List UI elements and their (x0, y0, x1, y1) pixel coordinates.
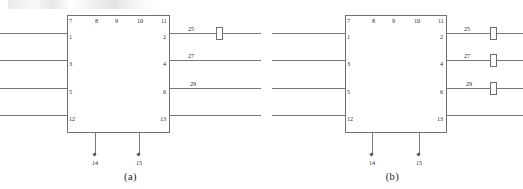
circuit-diagram-a: 7 8 9 10 11 1 3 5 12 2 4 6 13 25 27 29 (0, 0, 261, 189)
input-wire-b-12 (272, 115, 345, 116)
terminal-b-14 (369, 152, 373, 156)
ic-box-a (67, 15, 170, 133)
pin-label-a-left-1: 1 (69, 34, 72, 40)
input-wire-b-1 (272, 33, 345, 34)
output-wire-b-2 (447, 33, 523, 34)
pin-label-a-top-9: 9 (115, 18, 118, 24)
pin-label-a-left-5: 5 (69, 89, 72, 95)
wire-label-a-25: 25 (188, 26, 194, 32)
pin-label-a-right-2: 2 (163, 34, 166, 40)
pin-label-b-left-12: 12 (347, 116, 353, 122)
pin-label-a-bottom-14: 14 (92, 160, 98, 166)
input-wire-a-1 (0, 33, 67, 34)
figure-canvas: 7 8 9 10 11 1 3 5 12 2 4 6 13 25 27 29 (0, 0, 523, 189)
pin-label-a-top-11: 11 (161, 18, 167, 24)
pin-label-a-left-12: 12 (69, 116, 75, 122)
wire-label-b-25: 25 (464, 26, 470, 32)
terminal-a-15 (136, 152, 140, 156)
pin-label-a-right-4: 4 (163, 61, 166, 67)
component-b-on-wire-25 (490, 27, 497, 40)
wire-label-a-27: 27 (188, 53, 194, 59)
output-wire-a-13 (170, 115, 261, 116)
bottom-lead-a-15 (139, 133, 140, 155)
input-wire-a-12 (0, 115, 67, 116)
bottom-lead-b-15 (419, 133, 420, 155)
ic-box-b (345, 15, 447, 133)
input-wire-a-5 (0, 88, 67, 89)
component-a-on-wire-25 (216, 27, 223, 40)
pin-label-b-left-1: 1 (347, 34, 350, 40)
wire-label-b-27: 27 (464, 53, 470, 59)
pin-label-b-bottom-14: 14 (369, 160, 375, 166)
pin-label-b-top-11: 11 (438, 18, 444, 24)
terminal-a-14 (92, 152, 96, 156)
caption-b: (b) (262, 171, 523, 182)
pin-label-b-right-13: 13 (437, 116, 443, 122)
pin-label-b-top-7: 7 (347, 18, 350, 24)
circuit-diagram-b: 7 8 9 10 11 1 3 5 12 2 4 6 13 25 27 29 1… (262, 0, 523, 189)
output-wire-b-4 (447, 60, 523, 61)
pin-label-a-top-7: 7 (69, 18, 72, 24)
output-wire-b-13 (447, 115, 523, 116)
input-wire-b-3 (272, 60, 345, 61)
pin-label-a-top-8: 8 (95, 18, 98, 24)
pin-label-b-left-5: 5 (347, 89, 350, 95)
pin-label-b-right-2: 2 (440, 34, 443, 40)
output-wire-a-6 (170, 88, 261, 89)
pin-label-b-left-3: 3 (347, 61, 350, 67)
pin-label-b-right-4: 4 (440, 61, 443, 67)
input-wire-a-3 (0, 60, 67, 61)
component-b-on-wire-27 (490, 54, 497, 67)
pin-label-b-top-8: 8 (372, 18, 375, 24)
bottom-lead-a-14 (95, 133, 96, 155)
pin-label-a-top-10: 10 (137, 18, 143, 24)
component-b-on-wire-29 (490, 82, 497, 95)
wire-label-b-29: 29 (466, 81, 472, 87)
input-wire-b-5 (272, 88, 345, 89)
bottom-lead-b-14 (372, 133, 373, 155)
pin-label-b-bottom-15: 15 (416, 160, 422, 166)
pin-label-a-right-13: 13 (160, 116, 166, 122)
pin-label-a-right-6: 6 (163, 89, 166, 95)
output-wire-b-6 (447, 88, 523, 89)
pin-label-a-left-3: 3 (69, 61, 72, 67)
output-wire-a-4 (170, 60, 261, 61)
caption-a: (a) (0, 171, 261, 182)
pin-label-b-right-6: 6 (440, 89, 443, 95)
wire-label-a-29: 29 (190, 81, 196, 87)
pin-label-a-bottom-15: 15 (136, 160, 142, 166)
pin-label-b-top-10: 10 (414, 18, 420, 24)
pin-label-b-top-9: 9 (392, 18, 395, 24)
terminal-b-15 (416, 152, 420, 156)
